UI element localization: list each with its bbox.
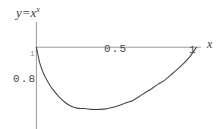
y-tick-label-0-8: 0.8 [13, 74, 36, 85]
function-label-base: y=x [16, 5, 36, 20]
function-label-exponent: x [36, 5, 40, 14]
y-tick-label-1: 1 [30, 48, 35, 59]
plot-screenshot: y=xx x 0.5 1 0.8 1 [0, 0, 224, 129]
x-tick-label-0-5: 0.5 [104, 44, 127, 55]
function-label: y=xx [16, 3, 40, 19]
x-axis-label: x [207, 38, 212, 50]
x-tick-label-1: 1 [189, 45, 197, 56]
